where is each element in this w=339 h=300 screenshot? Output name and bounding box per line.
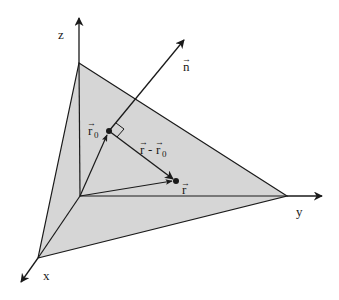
r-minus-r0-subscript: 0: [162, 149, 167, 159]
n-label: n: [183, 59, 190, 74]
r0-label: r: [88, 123, 93, 138]
plane-triangle: [38, 63, 287, 258]
r-minus-r0-label-a: r: [140, 142, 145, 157]
x-axis: [21, 258, 38, 282]
point-r0: [106, 128, 112, 134]
y-axis-label: y: [296, 204, 303, 219]
r-minus-r0-label-b: r: [156, 142, 161, 157]
point-r: [173, 178, 179, 184]
x-axis-label: x: [43, 268, 50, 283]
r0-label-subscript: 0: [94, 130, 99, 140]
plane-normal-vector-diagram: z y x → n → r 0 → r - → r 0 → r: [0, 0, 339, 300]
r-minus-r0-minus: -: [148, 142, 152, 157]
z-axis-label: z: [58, 27, 64, 42]
r-label: r: [182, 182, 187, 197]
